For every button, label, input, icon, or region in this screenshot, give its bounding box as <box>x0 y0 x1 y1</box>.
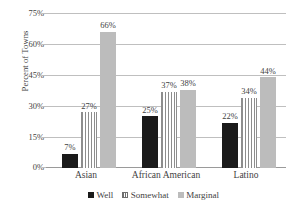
bar-asian-marginal[interactable] <box>100 32 116 168</box>
y-tick-label-30: 30% <box>4 102 44 111</box>
legend-swatch-marginal-icon <box>178 192 184 198</box>
y-tick-label-0: 0% <box>4 163 44 172</box>
y-axis-title: Percent of Towns <box>20 13 30 109</box>
bar-group-asian: 7% 27% 66% <box>46 13 126 168</box>
bar-group-african-american: 25% 37% 38% <box>126 13 206 168</box>
category-label-latino: Latino <box>206 171 286 181</box>
y-tick-label-75: 75% <box>4 9 44 18</box>
bar-african-american-somewhat[interactable] <box>161 92 177 169</box>
legend-label-marginal: Marginal <box>186 190 219 200</box>
bar-latino-somewhat[interactable] <box>241 98 257 168</box>
plot-area: 7% 27% 66% 25% 37% 38% 22% 34% 44% <box>46 13 286 168</box>
legend-label-well: Well <box>96 190 113 200</box>
bar-label-latino-marginal: 44% <box>252 67 284 76</box>
legend-item-marginal[interactable]: Marginal <box>178 190 219 200</box>
bar-african-american-marginal[interactable] <box>180 90 196 169</box>
bar-asian-somewhat[interactable] <box>81 112 97 168</box>
category-label-african-american: African American <box>126 171 206 181</box>
legend: Well Somewhat Marginal <box>0 190 307 200</box>
legend-swatch-somewhat-icon <box>122 192 128 198</box>
bar-asian-well[interactable] <box>62 154 78 169</box>
bar-label-asian-marginal: 66% <box>92 21 124 30</box>
bar-chart: Percent of Towns 75% 60% 45% 30% 15% 0% … <box>0 0 307 215</box>
legend-swatch-well-icon <box>88 192 94 198</box>
bar-label-african-american-marginal: 38% <box>172 79 204 88</box>
y-tick-label-15: 15% <box>4 133 44 142</box>
y-tick-label-60: 60% <box>4 40 44 49</box>
bar-latino-marginal[interactable] <box>260 77 276 168</box>
legend-item-well[interactable]: Well <box>88 190 113 200</box>
y-tick-label-45: 45% <box>4 71 44 80</box>
legend-label-somewhat: Somewhat <box>131 190 169 200</box>
bar-group-latino: 22% 34% 44% <box>206 13 286 168</box>
legend-item-somewhat[interactable]: Somewhat <box>122 190 169 200</box>
category-label-asian: Asian <box>46 171 126 181</box>
bar-latino-well[interactable] <box>222 123 238 169</box>
bar-african-american-well[interactable] <box>142 116 158 168</box>
